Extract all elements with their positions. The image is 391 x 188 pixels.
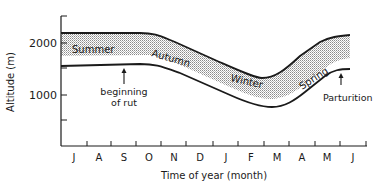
arrow-up-icon (339, 73, 344, 85)
y-tick-label-2000: 2000 (29, 37, 57, 50)
x-axis-label: Time of year (month) (160, 170, 267, 181)
x-ticks (87, 141, 366, 146)
arrow-up-icon (122, 68, 127, 84)
annotation-parturition: Parturition (323, 92, 373, 103)
month-label: J (351, 152, 355, 163)
season-label-summer: Summer (72, 44, 115, 55)
month-label: A (96, 152, 103, 163)
y-tick-label-1000: 1000 (29, 89, 57, 102)
month-label: N (170, 152, 177, 163)
month-label: F (248, 152, 254, 163)
annotation-rut-line2: of rut (111, 97, 137, 108)
month-label: O (145, 152, 153, 163)
month-label: S (121, 152, 127, 163)
altitude-seasonal-chart: 2000 1000 Altitude (m) J A S O N D J F M… (0, 0, 391, 188)
month-label: J (224, 152, 228, 163)
month-label: J (72, 152, 76, 163)
annotation-rut-line1: beginning (100, 86, 147, 97)
y-axis-label: Altitude (m) (5, 52, 16, 112)
month-label: A (299, 152, 306, 163)
month-label: M (273, 152, 282, 163)
month-label: D (196, 152, 204, 163)
month-label: M (323, 152, 332, 163)
